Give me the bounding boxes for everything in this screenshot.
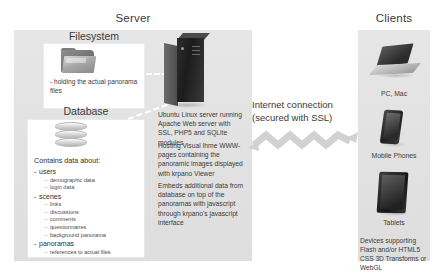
folder-icon: [61, 48, 95, 74]
phone-screen: [383, 113, 401, 140]
tower-vent: [192, 50, 200, 51]
bullet-dash: -: [45, 216, 47, 224]
database-cylinder-icon: [55, 122, 87, 152]
list-item-label: scenes: [39, 193, 61, 200]
database-contents-list: Contains data about: -users -demographic…: [34, 156, 140, 256]
phone-shadow: [382, 142, 406, 147]
list-item: -demographic data: [34, 177, 140, 185]
bullet-dash: -: [45, 232, 47, 240]
laptop-icon: [374, 45, 418, 85]
server-tower-icon: [164, 38, 208, 106]
db-disc-bottom: [55, 138, 87, 147]
database-list-heading: Contains data about:: [34, 156, 140, 165]
bullet-dash: -: [45, 201, 47, 209]
list-item: -panoramas: [34, 239, 140, 249]
bullet-dash: -: [34, 167, 36, 177]
diagram-canvas: Server Filesystem - holding the actual p…: [0, 0, 438, 278]
list-item-label: comments: [50, 216, 76, 222]
bullet-dash: -: [45, 224, 47, 232]
list-item-label: background panorama: [50, 232, 106, 238]
list-item: -questionnaires: [34, 224, 140, 232]
tower-vent: [192, 54, 200, 55]
mobile-phone-icon: [382, 110, 406, 148]
bullet-dash: -: [45, 249, 47, 257]
list-item-label: users: [39, 168, 56, 175]
zigzag-double-arrow-icon: [246, 128, 364, 154]
folder-gloss: [66, 58, 87, 63]
tower-led: [181, 47, 184, 50]
server-description-3: Embeds additional data from database on …: [158, 181, 244, 227]
bullet-dash: -: [34, 192, 36, 202]
list-item-label: discussions: [50, 209, 79, 215]
tower-vent: [192, 46, 200, 47]
clients-note: Devices supporting Flash and/or HTML5 CS…: [360, 236, 430, 272]
db-disc-top: [55, 122, 87, 131]
list-item: -scenes: [34, 192, 140, 202]
filesystem-label: Filesystem: [44, 30, 144, 42]
list-item: -references to actual files: [34, 249, 140, 257]
filesystem-note: - holding the actual panorama files: [50, 77, 142, 95]
bullet-dash: -: [45, 184, 47, 192]
internet-connection-label: Internet connection (secured with SSL): [252, 98, 370, 124]
list-item-label: demographic data: [50, 177, 95, 183]
tablet-screen: [379, 175, 404, 209]
database-label: Database: [28, 105, 144, 117]
tablet-shadow: [378, 211, 411, 216]
server-group-title: Server: [14, 12, 252, 24]
list-item-label: links: [50, 201, 61, 207]
list-item-label: references to actual files: [50, 249, 111, 255]
bullet-dash: -: [45, 177, 47, 185]
server-description-2: Hosting Visual Ihme WWW-pages containing…: [158, 141, 244, 178]
bullet-dash: -: [34, 239, 36, 249]
db-disc-middle: [55, 130, 87, 139]
bullet-dash: -: [45, 209, 47, 217]
client-label-pc-mac: PC, Mac: [358, 90, 430, 97]
list-item: -comments: [34, 216, 140, 224]
list-item: -users: [34, 167, 140, 177]
client-label-tablets: Tablets: [358, 219, 430, 226]
client-label-mobile-phones: Mobile Phones: [358, 152, 430, 159]
list-item: -discussions: [34, 209, 140, 217]
list-item: -background panorama: [34, 232, 140, 240]
tablet-icon: [378, 172, 411, 218]
list-item: -login data: [34, 184, 140, 192]
database-list-root: -users -demographic data -login data -sc…: [34, 167, 140, 256]
list-item-label: questionnaires: [50, 224, 86, 230]
tower-shadow: [166, 102, 208, 108]
tower-side: [164, 43, 178, 106]
list-item: -links: [34, 201, 140, 209]
laptop-shadow: [376, 73, 416, 78]
clients-group-title: Clients: [358, 12, 430, 24]
list-item-label: login data: [50, 184, 74, 190]
list-item-label: panoramas: [39, 240, 74, 247]
